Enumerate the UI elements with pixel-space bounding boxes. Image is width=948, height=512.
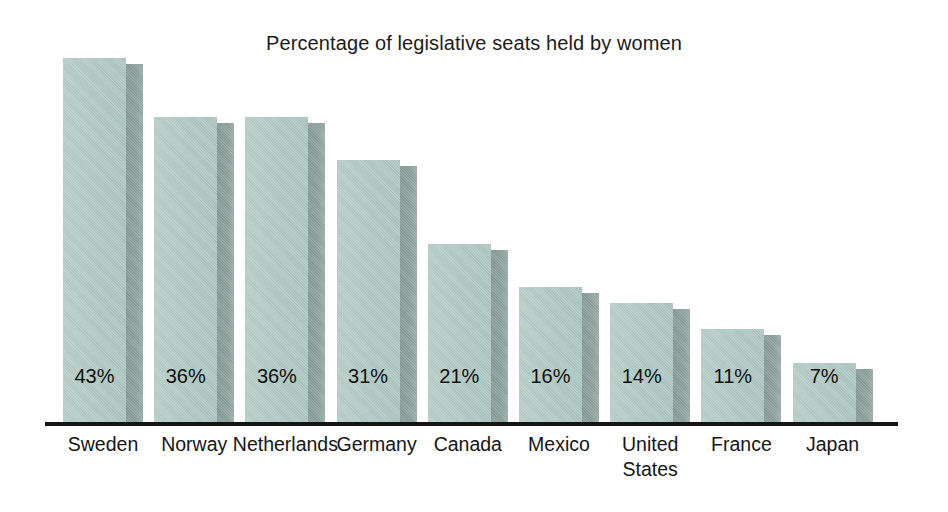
plot-area: 43%36%36%31%21%16%14%11%7% SwedenNorwayN… xyxy=(0,0,948,512)
x-axis-line xyxy=(45,422,898,426)
bar-face xyxy=(610,303,673,422)
bar-side-shadow xyxy=(308,123,325,422)
chart-page: Percentage of legislative seats held by … xyxy=(0,0,948,512)
bar-face xyxy=(793,363,856,422)
bar-face xyxy=(154,117,217,422)
bar-side-shadow xyxy=(764,335,781,422)
bar-france: 11% xyxy=(701,329,781,422)
bar-mexico: 16% xyxy=(519,287,599,422)
bar-sweden: 43% xyxy=(63,58,143,422)
bar-side-shadow xyxy=(400,166,417,422)
bar-face xyxy=(428,244,491,422)
bar-side-shadow xyxy=(856,369,873,422)
bar-side-shadow xyxy=(491,250,508,422)
bar-side-shadow xyxy=(673,309,690,422)
category-label-japan: Japan xyxy=(779,432,887,457)
bar-face xyxy=(701,329,764,422)
bar-netherlands: 36% xyxy=(245,117,325,422)
bar-face xyxy=(63,58,126,422)
bar-side-shadow xyxy=(582,293,599,422)
bar-face xyxy=(245,117,308,422)
bar-germany: 31% xyxy=(337,160,417,422)
bar-canada: 21% xyxy=(428,244,508,422)
bar-side-shadow xyxy=(217,123,234,422)
bar-face xyxy=(519,287,582,422)
bar-side-shadow xyxy=(126,64,143,422)
bar-face xyxy=(337,160,400,422)
bar-norway: 36% xyxy=(154,117,234,422)
bar-japan: 7% xyxy=(793,363,873,422)
bar-united-states: 14% xyxy=(610,303,690,422)
